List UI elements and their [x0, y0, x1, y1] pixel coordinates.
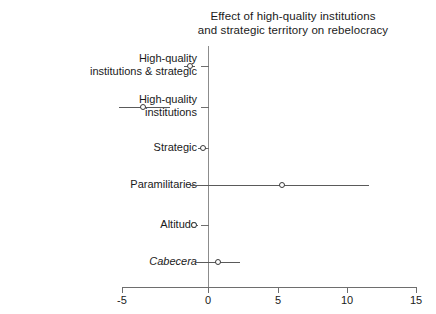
x-axis-tick-label: -5 — [102, 294, 142, 306]
estimate-point-marker — [191, 222, 197, 228]
x-axis-tick — [278, 288, 279, 293]
estimate-point-marker — [200, 145, 206, 151]
x-axis-tick — [347, 288, 348, 293]
plot-area: -5051015 High-qualityinstitutions & stra… — [0, 0, 436, 314]
x-axis-tick — [416, 288, 417, 293]
estimate-point-marker — [140, 104, 146, 110]
y-axis-category-label-line: Cabecera — [149, 255, 197, 268]
x-axis-tick-label: 15 — [396, 294, 436, 306]
y-axis-category-label-line: Paramilitaries — [130, 178, 197, 191]
y-axis-tick — [201, 66, 209, 67]
y-axis-category-label-line: institutions & strategic — [90, 65, 197, 78]
y-axis-category-label-line: High-quality — [90, 52, 197, 65]
zero-reference-line — [208, 46, 209, 288]
x-axis-tick — [208, 288, 209, 293]
x-axis-tick-label: 5 — [258, 294, 298, 306]
y-axis-category-label: High-qualityinstitutions & strategic — [90, 52, 197, 78]
coefficient-plot-figure: Effect of high-quality institutions and … — [0, 0, 436, 314]
x-axis-line — [122, 287, 417, 288]
y-axis-category-label: Paramilitaries — [130, 178, 197, 191]
estimate-point-marker — [279, 182, 285, 188]
estimate-point-marker — [215, 259, 221, 265]
y-axis-category-label-line: Strategic — [154, 141, 197, 154]
y-axis-category-label: Cabecera — [149, 255, 197, 268]
y-axis-category-label-line: High-quality — [139, 93, 197, 106]
x-axis-tick-label: 10 — [327, 294, 367, 306]
y-axis-category-label: High-qualityinstitutions — [139, 93, 197, 119]
x-axis-tick-label: 0 — [188, 294, 228, 306]
x-axis-tick — [122, 288, 123, 293]
y-axis-category-label: Strategic — [154, 141, 197, 154]
y-axis-tick — [201, 107, 209, 108]
estimate-point-marker — [187, 63, 193, 69]
y-axis-tick — [201, 225, 209, 226]
